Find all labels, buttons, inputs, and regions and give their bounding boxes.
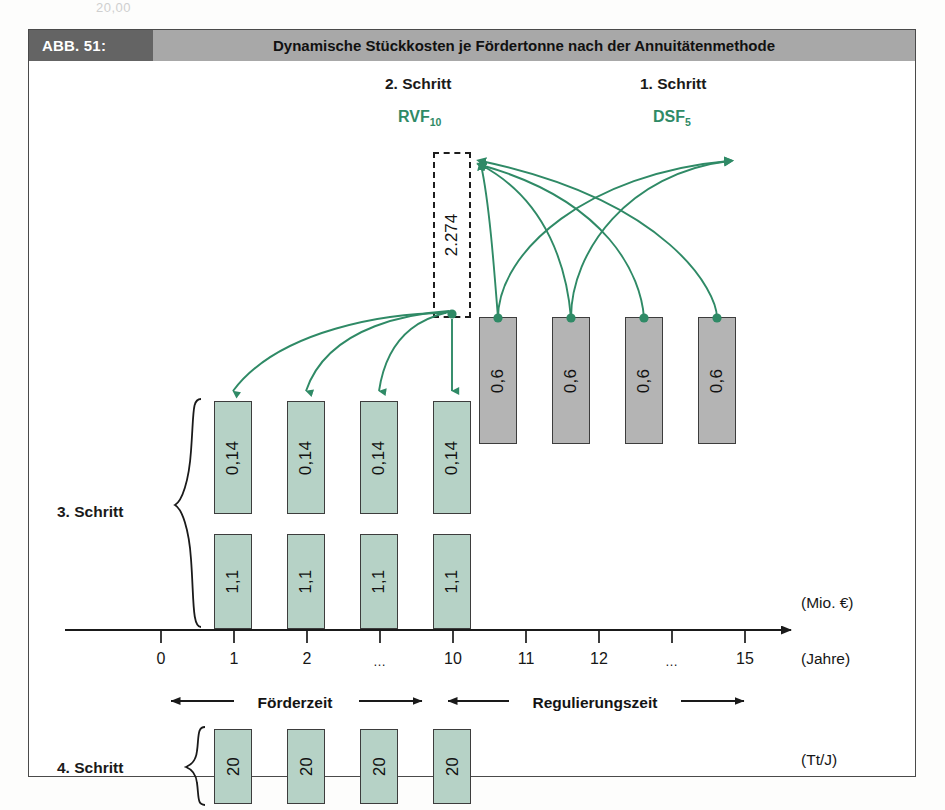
arrow-dsf-year-11 xyxy=(481,165,498,318)
arrow-dsf-year-12 xyxy=(481,165,571,318)
bar-tonnage-2: 20 xyxy=(287,729,325,804)
period-label-foerderzeit: Förderzeit xyxy=(258,694,333,712)
bar-green-upper-dots: 0,14 xyxy=(360,401,398,514)
bar-gray-dots: 0,6 xyxy=(625,317,663,444)
brace-step-4 xyxy=(186,727,205,805)
bar-label: 20 xyxy=(442,757,461,776)
step-4-label: 4. Schritt xyxy=(57,759,123,777)
step-1-caption: 1. Schritt xyxy=(640,75,706,93)
gray-bar-top-dots xyxy=(493,313,721,322)
step-3-label: 3. Schritt xyxy=(57,503,123,521)
step-1-factor-label: DSF5 xyxy=(653,108,691,128)
figure-frame: ABB. 51: Dynamische Stückkosten je Förde… xyxy=(28,29,916,777)
tick-label-1: 1 xyxy=(230,650,239,668)
tick-label-2: 2 xyxy=(303,650,312,668)
bar-label: 0,14 xyxy=(442,440,462,474)
bar-green-upper-10: 0,14 xyxy=(433,401,471,514)
brace-step-3 xyxy=(175,399,201,627)
tick-label-0: 0 xyxy=(157,650,166,668)
tick-label-dots-left: … xyxy=(373,654,387,669)
page-bleed-artifact: 20,00 xyxy=(96,0,131,15)
bar-label: 0,14 xyxy=(296,440,316,474)
figure-title: Dynamische Stückkosten je Fördertonne na… xyxy=(153,30,915,61)
bar-label: 0,14 xyxy=(223,440,243,474)
step-1-arrow-group xyxy=(498,161,729,318)
bar-label: 0,6 xyxy=(634,368,654,393)
tick-label-10: 10 xyxy=(444,650,462,668)
bar-label: 0,6 xyxy=(561,368,581,393)
bar-gray-12: 0,6 xyxy=(552,317,590,444)
bar-label: 1,1 xyxy=(370,570,389,594)
bar-label: 1,1 xyxy=(297,570,316,594)
figure-header: ABB. 51: Dynamische Stückkosten je Förde… xyxy=(29,30,915,61)
tick-label-11: 11 xyxy=(518,650,535,668)
figure-page: 20,00 ABB. 51: Dynamische Stückkosten je… xyxy=(0,0,945,810)
bar-label: 0,6 xyxy=(488,368,508,393)
bar-label: 1,1 xyxy=(443,570,462,594)
arrow-rvf-to-year-1 xyxy=(233,313,446,391)
annuity-value-label: 2.274 xyxy=(442,214,462,257)
arrow-rvf-to-year-dots xyxy=(379,311,452,391)
unit-label-tonnage: (Tt/J) xyxy=(801,751,837,769)
unit-label-years: (Jahre) xyxy=(801,650,850,668)
period-label-regulierungszeit: Regulierungszeit xyxy=(533,694,658,712)
step-3-arrow-group xyxy=(233,311,452,391)
bar-label: 0,6 xyxy=(707,368,727,393)
bar-label: 20 xyxy=(296,757,315,776)
tick-label-15: 15 xyxy=(736,650,754,668)
arrow-dsf-from-dots xyxy=(571,161,729,318)
diagram-canvas: 2. Schritt RVF10 1. Schritt DSF5 2.274 0… xyxy=(29,61,913,775)
bar-green-upper-1: 0,14 xyxy=(214,401,252,514)
bar-green-lower-2: 1,1 xyxy=(287,534,325,629)
figure-number-label: ABB. 51: xyxy=(29,30,153,61)
arrow-dsf-year-dots xyxy=(481,165,644,318)
bar-green-lower-10: 1,1 xyxy=(433,534,471,629)
bar-tonnage-1: 20 xyxy=(214,729,252,804)
tick-label-12: 12 xyxy=(590,650,608,668)
bar-label: 20 xyxy=(223,757,242,776)
bar-label: 20 xyxy=(369,757,388,776)
arrow-dsf-from-15 xyxy=(498,161,729,318)
bar-tonnage-10: 20 xyxy=(433,729,471,804)
bar-label: 1,1 xyxy=(224,570,243,594)
bar-green-lower-dots: 1,1 xyxy=(360,534,398,629)
step-1-arrows xyxy=(481,161,717,318)
arrow-rvf-to-year-2 xyxy=(306,311,449,391)
bar-green-lower-1: 1,1 xyxy=(214,534,252,629)
step-2-factor-label: RVF10 xyxy=(398,108,441,128)
bar-green-upper-2: 0,14 xyxy=(287,401,325,514)
bar-label: 0,14 xyxy=(369,440,389,474)
rvf-text: RVF xyxy=(398,108,430,125)
step-2-caption: 2. Schritt xyxy=(385,75,451,93)
bar-gray-15: 0,6 xyxy=(698,317,736,444)
bar-tonnage-dots: 20 xyxy=(360,729,398,804)
axis-ticks xyxy=(161,630,745,643)
rvf-subscript: 10 xyxy=(430,116,442,128)
unit-label-money: (Mio. €) xyxy=(801,594,854,612)
tick-label-dots-right: … xyxy=(665,654,679,669)
bar-gray-11: 0,6 xyxy=(479,317,517,444)
annuity-dashed-box: 2.274 xyxy=(433,152,471,318)
dsf-subscript: 5 xyxy=(685,116,691,128)
dsf-text: DSF xyxy=(653,108,685,125)
time-axis xyxy=(65,630,791,643)
arrow-dsf-year-15 xyxy=(481,161,717,318)
